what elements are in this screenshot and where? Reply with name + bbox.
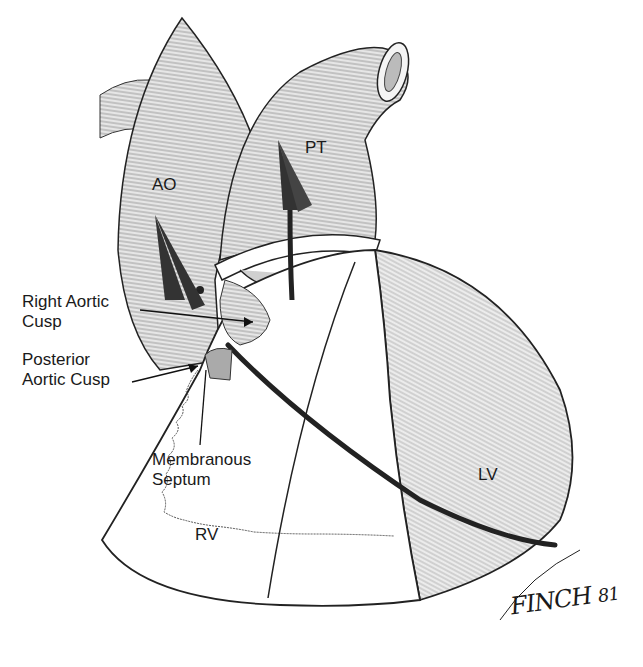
label-right-aortic-cusp-line2: Cusp (22, 312, 62, 332)
label-ao: AO (152, 175, 177, 195)
heart-illustration (0, 0, 643, 667)
label-right-aortic-cusp-line1: Right Aortic (22, 292, 109, 312)
label-posterior-aortic-cusp-line1: Posterior (22, 350, 90, 370)
label-posterior-aortic-cusp-line2: Aortic Cusp (22, 370, 110, 390)
label-rv: RV (195, 525, 218, 545)
signature-year: 81 (596, 583, 620, 607)
label-pt: PT (305, 138, 327, 158)
label-membranous-septum-line1: Membranous (152, 450, 251, 470)
label-lv: LV (478, 465, 498, 485)
label-membranous-septum-line2: Septum (152, 470, 211, 490)
